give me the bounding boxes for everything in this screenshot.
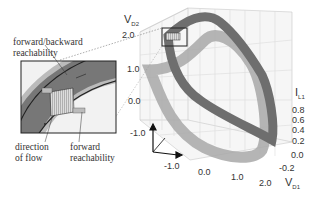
il1-tick: 0.2 [292,136,305,146]
il1-sub: L1 [298,94,305,100]
label-fb-reachability: forward/backward reachability [13,37,83,59]
il1-tick: 0.0 [291,150,304,160]
label-forward-reachability: forward reachability [70,142,115,164]
il1-tick: -0.2 [279,163,295,173]
vd2-tick: 1.0 [127,64,140,74]
vd2-sub: D2 [131,21,139,27]
axis-title-vd2: VD2 [124,13,139,27]
vd2-tick: 0.0 [128,96,141,106]
fwd-reach-line1: forward [70,142,115,153]
vd1-tick: -1.0 [164,161,180,171]
vd2-tick: 2.0 [122,30,135,40]
vd1-tick: 2.0 [259,178,272,188]
vd2-tick: -1.0 [130,128,146,138]
axis-title-vd1: VD1 [285,176,300,190]
inset-zoom [20,50,120,140]
label-direction-of-flow: direction of flow [15,142,49,164]
vd1-tick: 0.0 [198,167,211,177]
vd1-tick: 1.0 [231,172,244,182]
il1-tick: 0.8 [292,105,305,115]
fb-reach-line2: reachability [13,48,83,59]
vd1-sub: D1 [292,184,300,190]
il1-tick: 0.4 [292,125,305,135]
direction-line2: of flow [15,153,49,164]
fwd-reach-line2: reachability [70,153,115,164]
phase-space-figure [0,0,315,198]
direction-line1: direction [15,142,49,153]
il1-tick: 0.6 [292,115,305,125]
axis-title-il1: IL1 [295,86,305,100]
fb-reach-line1: forward/backward [13,37,83,48]
